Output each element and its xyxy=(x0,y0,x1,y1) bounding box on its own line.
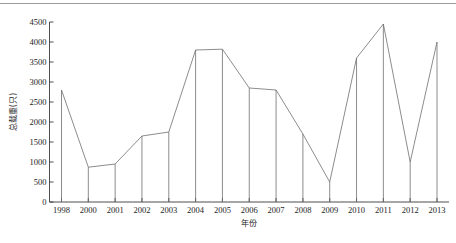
data-drop-lines xyxy=(62,24,438,202)
x-axis-tick-label: 2002 xyxy=(133,205,150,215)
x-axis-tick-label: 2007 xyxy=(268,205,285,215)
y-axis-title: 总载重(只) xyxy=(8,93,18,131)
x-axis-tick-label: 1998 xyxy=(53,205,70,215)
x-axis-tick-label: 2006 xyxy=(241,205,258,215)
y-axis-tick-label: 0 xyxy=(42,197,46,207)
x-axis-tick-label: 2004 xyxy=(187,205,205,215)
x-axis-tick-label: 2009 xyxy=(321,205,338,215)
y-axis-tick-label: 500 xyxy=(34,177,47,187)
x-axis-tick-label: 2013 xyxy=(429,205,446,215)
y-axis-tick-label: 2000 xyxy=(30,117,47,127)
y-axis-tick-label: 4000 xyxy=(30,37,47,47)
line-chart-plot: 050010001500200025003000350040004500 199… xyxy=(0,0,456,243)
x-axis-title: 年份 xyxy=(241,218,257,228)
x-axis-tick-label: 2010 xyxy=(348,205,365,215)
y-axis-tick-label: 3500 xyxy=(30,57,47,67)
x-axis-tick-label: 2003 xyxy=(160,205,177,215)
y-axis-tick-label: 4500 xyxy=(30,17,47,27)
y-axis-tick-label: 1500 xyxy=(30,137,47,147)
x-axis-tick-label: 2000 xyxy=(80,205,97,215)
y-axis-tick-label: 3000 xyxy=(30,77,47,87)
chart-container: 050010001500200025003000350040004500 199… xyxy=(0,0,456,243)
y-axis-tick-label: 2500 xyxy=(30,97,47,107)
y-axis: 050010001500200025003000350040004500 xyxy=(30,17,54,207)
x-axis-tick-label: 2001 xyxy=(107,205,124,215)
x-axis-tick-label: 2011 xyxy=(375,205,392,215)
x-axis-tick-label: 2005 xyxy=(214,205,231,215)
x-axis-tick-label: 2008 xyxy=(294,205,311,215)
x-axis-tick-label: 2012 xyxy=(402,205,419,215)
y-axis-tick-label: 1000 xyxy=(30,157,47,167)
